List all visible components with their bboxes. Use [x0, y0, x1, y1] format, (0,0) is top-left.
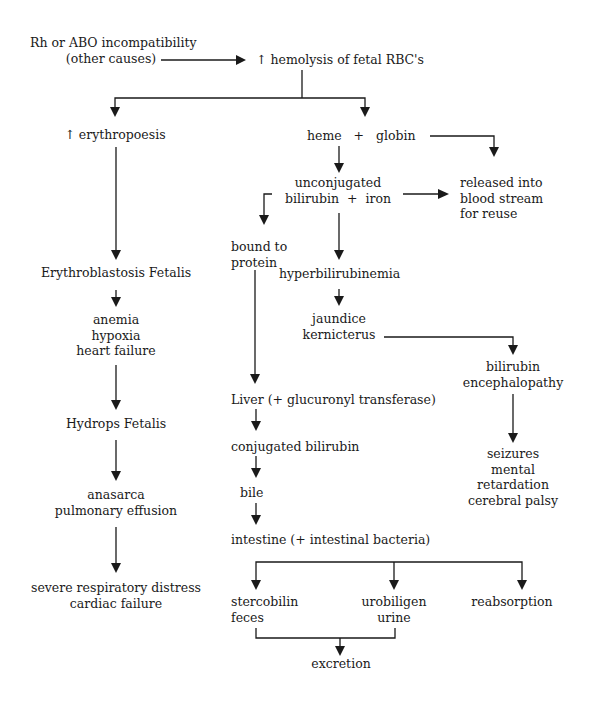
node-conjugated: conjugated bilirubin	[231, 439, 359, 455]
edge-to-excretion	[256, 628, 395, 656]
node-hemolysis: ↑ hemolysis of fetal RBC's	[256, 52, 424, 68]
node-cause: Rh or ABO incompatibility (other causes)	[30, 35, 197, 66]
edge-unconjugated-released	[403, 189, 449, 199]
node-liver: Liver (+ glucuronyl transferase)	[231, 392, 436, 408]
edge-hydrops-anasarca	[111, 440, 121, 481]
edge-jaundice-encephalopathy	[384, 337, 518, 355]
edge-globin-released	[430, 136, 499, 157]
node-excretion: excretion	[311, 656, 370, 672]
node-hydrops: Hydrops Fetalis	[66, 416, 166, 432]
edge-heme-unconjugated	[334, 146, 344, 173]
edge-encephalopathy-seizures	[508, 394, 518, 443]
edge-hyperbili-jaundice	[334, 289, 344, 306]
edge-unconjugated-bound	[259, 194, 272, 225]
edge-bound-liver	[250, 270, 260, 384]
node-reabsorption: reabsorption	[471, 594, 552, 610]
edge-unconjugated-hyperbili	[334, 213, 344, 260]
edge-intestine-split	[251, 562, 527, 590]
edge-anasarca-severe	[111, 527, 121, 573]
node-intestine: intestine (+ intestinal bacteria)	[231, 532, 430, 548]
node-erythropoesis: ↑ erythropoesis	[64, 127, 165, 143]
node-stercobilin: stercobilin feces	[231, 594, 298, 625]
node-erythroblastosis: Erythroblastosis Fetalis	[41, 265, 191, 281]
node-hyperbili: hyperbilirubinemia	[279, 266, 400, 282]
edge-erythropoesis-erythroblastosis	[111, 147, 121, 260]
node-anemia: anemia hypoxia heart failure	[76, 312, 155, 359]
node-encephalopathy: bilirubin encephalopathy	[463, 359, 563, 390]
node-bile: bile	[240, 485, 263, 501]
node-severe: severe respiratory distress cardiac fail…	[31, 580, 201, 611]
node-urobiligen: urobiligen urine	[362, 594, 427, 625]
node-unconjugated: unconjugated bilirubin + iron	[285, 175, 391, 206]
node-seizures: seizures mental retardation cerebral pal…	[468, 446, 558, 508]
edge-anemia-hydrops	[111, 365, 121, 410]
edge-bile-intestine	[251, 503, 261, 525]
node-released: released into blood stream for reuse	[460, 175, 543, 222]
edge-hemolysis-split	[110, 70, 370, 117]
node-anasarca: anasarca pulmonary effusion	[55, 487, 177, 518]
edge-liver-conjugated	[251, 409, 261, 431]
node-heme-globin: heme + globin	[307, 128, 416, 144]
edge-erythroblastosis-anemia	[111, 290, 121, 307]
edge-conjugated-bile	[251, 456, 261, 478]
node-jaundice: jaundice kernicterus	[303, 311, 376, 342]
